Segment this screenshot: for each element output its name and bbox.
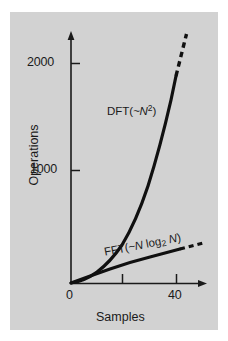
y-axis-arrow-icon (68, 31, 75, 40)
dft-variable: N (139, 105, 147, 117)
x-axis-arrow-icon (198, 280, 207, 287)
figure-container: 2000 1000 0 40 Operations Samples DFT(~N… (0, 0, 228, 341)
dft-prefix: DFT( (107, 105, 133, 117)
x-tick-label-40: 40 (168, 288, 182, 302)
dft-series-annotation: DFT(~N2) (107, 103, 156, 117)
x-axis-title: Samples (96, 310, 145, 324)
y-tick-label-2000: 2000 (27, 55, 54, 69)
fft-curve-dashed (180, 243, 203, 249)
fft-log: log (142, 235, 162, 250)
dft-curve-dashed (176, 34, 187, 76)
x-tick-label-0: 0 (66, 288, 73, 302)
y-axis-title: Operations (27, 110, 41, 200)
dft-suffix: ) (152, 105, 156, 117)
